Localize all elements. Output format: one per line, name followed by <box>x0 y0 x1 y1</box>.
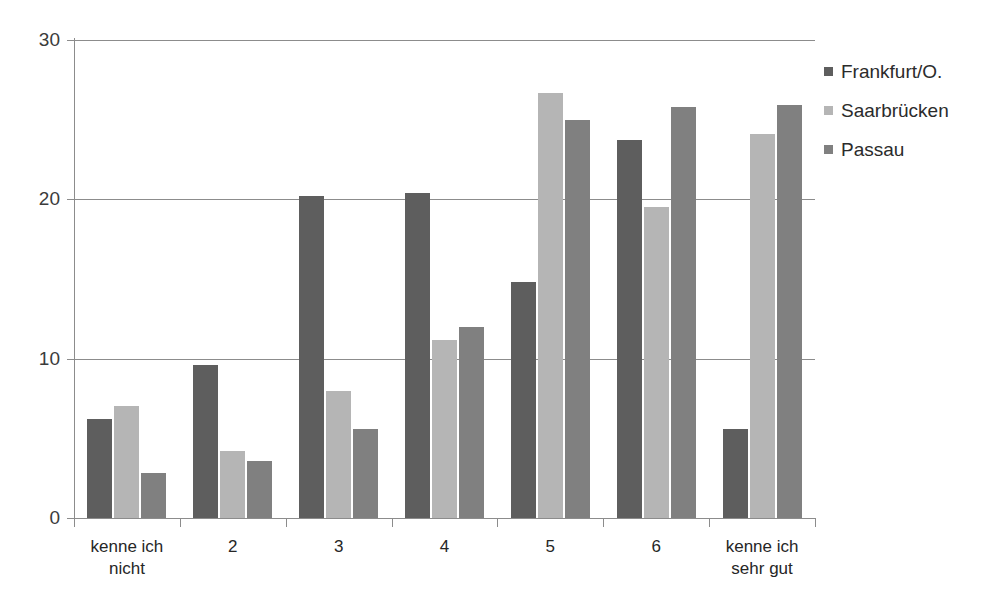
x-category-label: 3 <box>286 536 392 558</box>
legend: Frankfurt/O.SaarbrückenPassau <box>824 52 989 169</box>
bar <box>141 473 166 518</box>
legend-item: Passau <box>824 130 989 169</box>
bar <box>723 429 748 518</box>
x-category-label: 2 <box>180 536 286 558</box>
y-tick-label-30: 30 <box>14 30 60 49</box>
x-tick-mark-7 <box>815 518 816 527</box>
legend-item: Saarbrücken <box>824 91 989 130</box>
bar <box>193 365 218 518</box>
legend-label: Saarbrücken <box>841 101 949 120</box>
bar <box>247 461 272 518</box>
x-tick-mark-4 <box>497 518 498 527</box>
bar <box>87 419 112 518</box>
y-tick-mark-10 <box>67 359 75 360</box>
y-tick-mark-20 <box>67 199 75 200</box>
bar <box>405 193 430 518</box>
legend-swatch-icon <box>824 67 833 76</box>
y-tick-mark-30 <box>67 40 75 41</box>
x-tick-mark-2 <box>286 518 287 527</box>
gridline-20 <box>74 199 815 200</box>
bar <box>326 391 351 518</box>
x-tick-mark-0 <box>74 518 75 527</box>
bar <box>644 207 669 518</box>
bar <box>750 134 775 518</box>
bar <box>617 140 642 518</box>
bar <box>511 282 536 518</box>
legend-label: Passau <box>841 140 904 159</box>
bar <box>353 429 378 518</box>
bar <box>114 406 139 518</box>
legend-swatch-icon <box>824 145 833 154</box>
y-tick-label-0: 0 <box>14 508 60 527</box>
x-tick-mark-6 <box>709 518 710 527</box>
bar <box>777 105 802 518</box>
plot-area <box>74 40 815 518</box>
x-tick-mark-5 <box>603 518 604 527</box>
bar <box>565 120 590 518</box>
bar <box>459 327 484 518</box>
x-tick-mark-3 <box>392 518 393 527</box>
x-category-label: 6 <box>603 536 709 558</box>
y-axis-labels: 0102030 <box>0 0 60 611</box>
x-tick-mark-1 <box>180 518 181 527</box>
bar <box>220 451 245 518</box>
x-axis-line <box>74 518 816 519</box>
x-category-label: 4 <box>392 536 498 558</box>
y-tick-label-20: 20 <box>14 189 60 208</box>
y-tick-label-10: 10 <box>14 349 60 368</box>
bar <box>671 107 696 518</box>
x-category-label: 5 <box>497 536 603 558</box>
bar-chart: 0102030 kenne ich nicht23456kenne ich se… <box>0 0 989 611</box>
bar <box>299 196 324 518</box>
x-category-label: kenne ich sehr gut <box>709 536 815 580</box>
gridline-30 <box>74 40 815 41</box>
legend-item: Frankfurt/O. <box>824 52 989 91</box>
legend-swatch-icon <box>824 106 833 115</box>
x-category-label: kenne ich nicht <box>74 536 180 580</box>
bar <box>538 93 563 518</box>
bar <box>432 340 457 518</box>
legend-label: Frankfurt/O. <box>841 62 942 81</box>
